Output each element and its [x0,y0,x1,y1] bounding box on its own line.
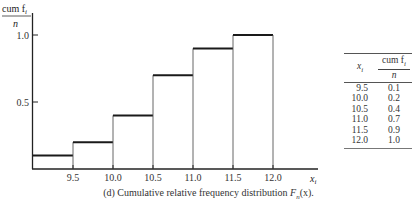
table-cell-cum: 0.1 [376,82,412,93]
figure-caption: (d) Cumulative relative frequency distri… [0,187,417,201]
table-row: 9.50.1 [344,82,412,93]
table-header-cum: cum fi n [376,54,412,83]
x-tick-label: 11.5 [224,172,241,183]
table-cell-x: 10.5 [344,104,376,115]
x-ticks: 9.510.010.511.011.512.0 [67,165,282,183]
caption-text: (d) Cumulative relative frequency distri… [103,187,290,198]
x-axis-label: xi [309,173,316,186]
table-cell-x: 9.5 [344,82,376,93]
y-tick-label-0.5: 0.5 [17,97,30,108]
table-row: 11.50.9 [344,125,412,136]
y-axis-label-numerator: cum fi [2,3,27,16]
table-row: 10.50.4 [344,104,412,115]
table-header-x: xi [344,54,376,83]
table-row: 12.01.0 [344,135,412,148]
table-cell-cum: 0.4 [376,104,412,115]
x-tick-label: 10.0 [104,172,122,183]
table-cell-x: 12.0 [344,135,376,148]
table-cell-cum: 0.2 [376,93,412,104]
y-axis-label-denominator: n [13,18,18,29]
table-row: 10.00.2 [344,93,412,104]
step-series [33,35,273,169]
table-cell-x: 11.0 [344,114,376,125]
table-cell-cum: 1.0 [376,135,412,148]
caption-suffix: (x). [300,187,314,198]
x-tick-label: 11.0 [184,172,201,183]
x-tick-label: 12.0 [264,172,282,183]
table-row: 11.00.7 [344,114,412,125]
x-tick-label: 10.5 [144,172,162,183]
table-cell-cum: 0.7 [376,114,412,125]
y-tick-label-1.0: 1.0 [17,30,30,41]
x-tick-label: 9.5 [67,172,80,183]
table-cell-x: 10.0 [344,93,376,104]
cumulative-frequency-table: xi cum fi n 9.50.110.00.210.50.411.00.71… [344,53,412,149]
table-cell-x: 11.5 [344,125,376,136]
table-cell-cum: 0.9 [376,125,412,136]
